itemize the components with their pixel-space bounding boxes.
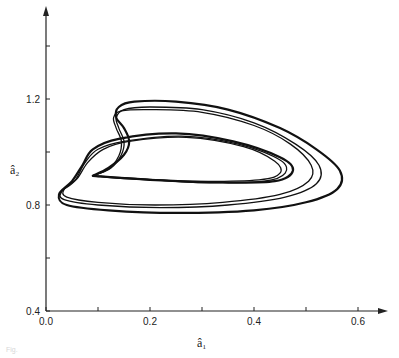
y-tick-label: 0.4 [26,306,40,317]
figure-caption: Fig. [6,346,18,353]
axes [46,14,380,311]
x-axis-arrow-icon [378,308,388,314]
x-tick-label: 0.4 [247,316,261,327]
x-ticks: 0.00.20.40.6 [39,307,365,327]
trajectory-outer [59,101,342,213]
y-tick-label: 1.2 [26,94,40,105]
y-axis-label: â₂ [10,163,20,177]
y-tick-label: 0.8 [26,200,40,211]
x-axis-label: â₁ [197,336,207,350]
x-tick-label: 0.0 [39,316,53,327]
plot-curves [59,101,342,213]
y-axis-arrow-icon [43,6,49,16]
phase-plot: 0.00.20.40.6 0.40.81.2 â₁ â₂ [0,0,399,358]
x-tick-label: 0.2 [143,316,157,327]
x-tick-label: 0.6 [351,316,365,327]
